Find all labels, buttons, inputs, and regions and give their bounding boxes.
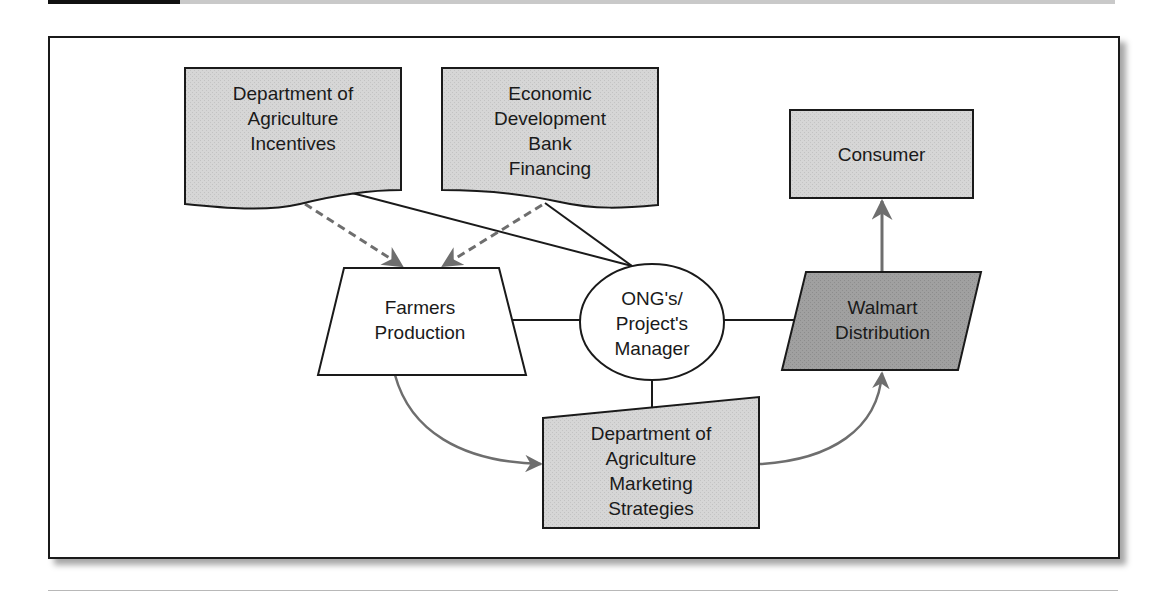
edge-financing-to-farmers bbox=[443, 205, 542, 266]
edge-incentives-to-farmers bbox=[305, 204, 402, 266]
node-farmers-production-shape bbox=[318, 268, 526, 375]
footer-rule bbox=[48, 590, 1118, 591]
node-consumer-shape bbox=[790, 110, 973, 198]
node-ag-incentives-shape bbox=[185, 68, 401, 209]
edge-marketing-to-walmart bbox=[760, 373, 882, 464]
edge-farmers-to-marketing bbox=[395, 375, 541, 464]
flow-diagram bbox=[0, 0, 1160, 593]
edge-financing-to-manager bbox=[545, 203, 632, 266]
node-bank-financing-shape bbox=[442, 68, 658, 208]
node-marketing-strategies-shape bbox=[543, 397, 759, 528]
node-walmart-distribution-shape bbox=[782, 272, 981, 370]
node-project-manager-shape bbox=[580, 264, 724, 380]
